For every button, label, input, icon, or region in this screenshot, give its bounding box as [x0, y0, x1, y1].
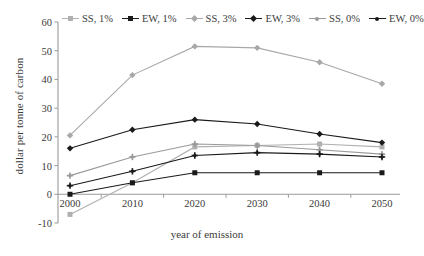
- legend-marker-square-icon: [122, 14, 139, 23]
- data-point: [130, 180, 135, 185]
- series-line: [70, 120, 382, 149]
- series-line: [70, 153, 382, 186]
- data-point: [129, 154, 135, 160]
- legend-item[interactable]: EW, 1%: [122, 13, 177, 24]
- data-point: [317, 170, 322, 175]
- data-point: [192, 43, 198, 49]
- legend-item[interactable]: SS, 3%: [186, 13, 237, 24]
- legend-item[interactable]: EW, 0%: [369, 13, 424, 24]
- series-line: [70, 144, 382, 176]
- legend-label: SS, 3%: [206, 13, 237, 24]
- legend-item[interactable]: SS, 0%: [309, 13, 360, 24]
- data-point: [255, 170, 260, 175]
- data-point: [316, 59, 322, 65]
- legend-label: EW, 0%: [389, 13, 424, 24]
- data-point: [254, 149, 260, 155]
- chart-legend: SS, 1%EW, 1%SS, 3%EW, 3%SS, 0%EW, 0%: [62, 13, 424, 24]
- data-point: [380, 170, 385, 175]
- legend-marker-square-icon: [62, 14, 79, 23]
- data-point: [254, 45, 260, 51]
- data-point: [317, 142, 322, 147]
- series-ss-1: [68, 142, 385, 217]
- data-point: [68, 192, 73, 197]
- legend-marker-plus-icon: [309, 14, 326, 23]
- data-point: [129, 126, 135, 132]
- legend-item[interactable]: EW, 3%: [245, 13, 300, 24]
- data-point: [192, 152, 198, 158]
- legend-label: SS, 1%: [82, 13, 113, 24]
- series-ew-0: [67, 149, 385, 188]
- legend-label: EW, 3%: [265, 13, 300, 24]
- legend-marker-diamond-icon: [245, 14, 262, 23]
- data-point: [254, 121, 260, 127]
- data-point: [192, 116, 198, 122]
- data-point: [67, 182, 73, 188]
- data-point: [316, 131, 322, 137]
- data-point: [379, 81, 385, 87]
- legend-label: SS, 0%: [329, 13, 360, 24]
- data-point: [192, 170, 197, 175]
- data-point: [129, 168, 135, 174]
- data-point: [67, 145, 73, 151]
- legend-marker-diamond-icon: [186, 14, 203, 23]
- series-ss-3: [67, 43, 385, 138]
- legend-item[interactable]: SS, 1%: [62, 13, 113, 24]
- series-ew-1: [68, 170, 385, 197]
- legend-marker-plus-icon: [369, 14, 386, 23]
- data-point: [68, 212, 73, 217]
- data-point: [316, 151, 322, 157]
- data-point: [67, 172, 73, 178]
- legend-label: EW, 1%: [142, 13, 177, 24]
